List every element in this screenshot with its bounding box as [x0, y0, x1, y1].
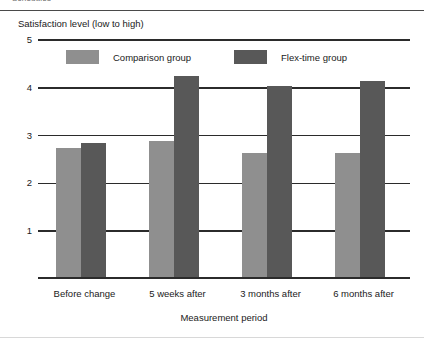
bar: [242, 153, 267, 277]
chart-legend: Comparison group Flex-time group: [38, 50, 410, 70]
bar: [81, 143, 106, 277]
bar: [56, 148, 81, 277]
y-axis-tick-label: 1: [12, 226, 32, 236]
header-divider: [0, 10, 424, 11]
y-axis-title: Satisfaction level (low to high): [18, 18, 144, 29]
x-axis-tick-label: Before change: [54, 288, 116, 299]
plot-area: 12345Before change5 weeks after3 months …: [38, 40, 410, 279]
legend-label-flex-time: Flex-time group: [281, 52, 347, 63]
x-axis-line: [38, 277, 410, 279]
legend-item-comparison-group: Comparison group: [66, 50, 191, 64]
y-axis-tick-label: 5: [12, 35, 32, 45]
gridline-3: 3: [38, 135, 410, 137]
legend-swatch-icon-comparison: [66, 50, 99, 64]
x-axis-tick-label: 5 weeks after: [149, 288, 206, 299]
bar-chart-figure: Schedules Satisfaction level (low to hig…: [0, 0, 424, 338]
y-axis-tick-label: 4: [12, 83, 32, 93]
bar: [267, 86, 292, 277]
x-axis-tick-label: 6 months after: [333, 288, 394, 299]
running-head: Schedules: [12, 0, 51, 2]
y-axis-tick-label: 2: [12, 179, 32, 189]
y-axis-tick-label: 3: [12, 131, 32, 141]
gridline-4: 4: [38, 87, 410, 89]
bar: [360, 81, 385, 277]
x-axis-title: Measurement period: [38, 312, 410, 323]
bar: [149, 141, 174, 277]
bar: [335, 153, 360, 277]
legend-item-flex-time-group: Flex-time group: [234, 50, 347, 64]
gridline-5: 5: [38, 39, 410, 41]
legend-swatch-icon-flex-time: [234, 50, 267, 64]
legend-label-comparison: Comparison group: [113, 52, 191, 63]
x-axis-tick-label: 3 months after: [240, 288, 301, 299]
bar: [174, 76, 199, 277]
